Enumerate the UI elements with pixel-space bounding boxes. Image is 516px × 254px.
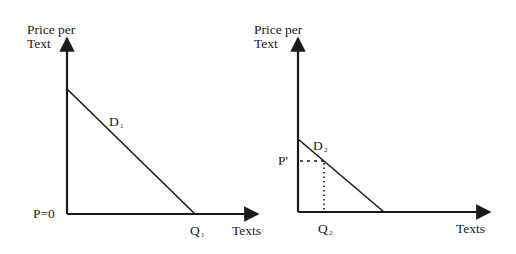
left-diagram: Price per Text D 1 P=0 Q 1 Texts [27, 22, 261, 239]
q1-subscript: 1 [201, 231, 205, 239]
demand-curve-d1 [67, 89, 195, 214]
origin-label-p0: P=0 [33, 206, 55, 221]
q2-subscript: 2 [329, 229, 333, 237]
demand-diagrams: Price per Text D 1 P=0 Q 1 Texts Price p… [0, 0, 516, 254]
right-y-axis-label-line1: Price per [254, 22, 303, 37]
d2-label: D [313, 138, 323, 153]
d1-label: D [109, 114, 119, 129]
d1-subscript: 1 [120, 122, 124, 130]
right-x-axis-label: Texts [456, 221, 485, 236]
d2-subscript: 2 [324, 146, 328, 154]
right-y-axis-label-line2: Text [254, 36, 278, 51]
left-x-axis-label: Texts [232, 223, 261, 238]
left-y-axis-label-line2: Text [27, 36, 51, 51]
left-y-axis-label-line1: Price per [27, 22, 76, 37]
p-prime-label: P' [278, 153, 288, 168]
right-diagram: Price per Text D 2 P' Q 2 Texts [254, 22, 490, 237]
demand-curve-d2 [298, 139, 384, 212]
q2-label: Q [318, 221, 328, 236]
q1-label: Q [190, 223, 200, 238]
